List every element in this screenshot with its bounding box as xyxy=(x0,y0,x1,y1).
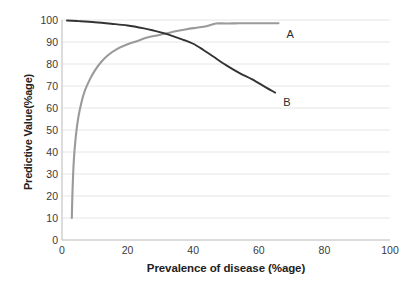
line-chart: 0102030405060708090100 020406080100 A B … xyxy=(0,0,407,289)
x-tick-60: 60 xyxy=(239,245,279,256)
series-lines xyxy=(67,20,279,218)
x-tick-0: 0 xyxy=(42,245,82,256)
x-tick-100: 100 xyxy=(370,245,407,256)
x-tick-20: 20 xyxy=(108,245,148,256)
plot-area: A B xyxy=(62,20,390,240)
series-label-a: A xyxy=(286,29,293,40)
y-axis-title: Predictive Value(%age) xyxy=(22,22,34,242)
x-tick-80: 80 xyxy=(304,245,344,256)
x-tick-40: 40 xyxy=(173,245,213,256)
series-line-a xyxy=(72,23,279,218)
x-axis-title: Prevalence of disease (%age) xyxy=(62,262,390,274)
series-label-b: B xyxy=(283,97,290,108)
x-axis-tick-labels: 020406080100 xyxy=(0,245,407,261)
gridlines xyxy=(62,20,390,218)
plot-svg xyxy=(62,20,390,240)
